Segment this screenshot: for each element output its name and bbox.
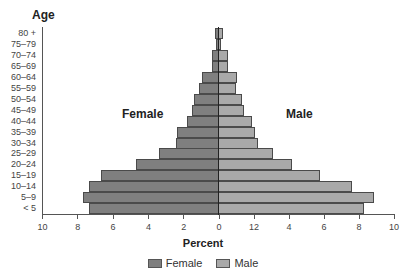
x-tick xyxy=(324,214,325,219)
legend-label-female: Female xyxy=(166,257,203,269)
bar-male xyxy=(219,159,293,170)
x-tick xyxy=(148,214,149,219)
y-tick-label: 40–44 xyxy=(11,116,36,127)
x-tick-label: 4 xyxy=(146,222,151,232)
bar-male xyxy=(219,83,237,94)
bar-male xyxy=(219,94,243,105)
x-tick xyxy=(183,214,184,219)
bar-male xyxy=(219,127,256,138)
y-tick-label: 70–74 xyxy=(11,50,36,61)
bar-male xyxy=(219,28,223,39)
bar-female xyxy=(136,159,218,170)
y-tick-label: 35–39 xyxy=(11,127,36,138)
legend: Female Male xyxy=(0,257,406,269)
bar-male xyxy=(219,138,258,149)
bar-male xyxy=(219,72,237,83)
x-tick xyxy=(289,214,290,219)
y-tick-label: 5–9 xyxy=(21,192,36,203)
bar-female xyxy=(89,203,219,214)
x-tick-label: 12 xyxy=(249,222,259,232)
bar-female xyxy=(199,83,218,94)
bar-male xyxy=(219,50,229,61)
y-tick-label: 65–69 xyxy=(11,61,36,72)
x-tick xyxy=(359,214,360,219)
bar-female xyxy=(202,72,219,83)
x-tick xyxy=(77,214,78,219)
legend-label-male: Male xyxy=(234,257,258,269)
x-axis-title: Percent xyxy=(0,237,406,249)
bar-male xyxy=(219,170,321,181)
bar-female xyxy=(101,170,218,181)
bar-male xyxy=(219,192,375,203)
x-tick xyxy=(42,214,43,219)
bar-male xyxy=(219,203,364,214)
y-tick-label: 60–64 xyxy=(11,72,36,83)
x-tick-label: 6 xyxy=(111,222,116,232)
y-axis-line xyxy=(42,27,43,215)
male-annotation: Male xyxy=(286,107,313,121)
x-tick-label: 2 xyxy=(181,222,186,232)
x-tick-label: 10 xyxy=(37,222,47,232)
bar-female xyxy=(89,181,219,192)
bar-male xyxy=(219,181,352,192)
legend-item-female: Female xyxy=(148,257,203,269)
bar-female xyxy=(176,138,219,149)
bar-male xyxy=(219,116,252,127)
x-tick-label: 6 xyxy=(321,222,326,232)
bar-female xyxy=(187,116,219,127)
female-swatch-icon xyxy=(148,259,162,268)
y-tick-label: 55–59 xyxy=(11,83,36,94)
y-tick-label: 45–49 xyxy=(11,105,36,116)
y-tick-label: 80 + xyxy=(18,28,36,39)
x-tick xyxy=(113,214,114,219)
zero-line xyxy=(218,27,219,215)
bar-male xyxy=(219,105,244,116)
x-tick-label: 0 xyxy=(216,222,221,232)
bar-female xyxy=(159,148,219,159)
bar-male xyxy=(219,61,229,72)
female-annotation: Female xyxy=(122,107,163,121)
x-tick-label: 4 xyxy=(286,222,291,232)
bar-female xyxy=(194,94,219,105)
bar-female xyxy=(192,105,218,116)
y-tick-label: < 5 xyxy=(23,203,36,214)
y-axis-title: Age xyxy=(32,8,55,22)
bar-female xyxy=(83,192,219,203)
x-tick-label: 8 xyxy=(356,222,361,232)
y-tick-label: 20–24 xyxy=(11,159,36,170)
y-tick-label: 50–54 xyxy=(11,94,36,105)
x-tick xyxy=(254,214,255,219)
x-tick-label: 10 xyxy=(389,222,399,232)
legend-item-male: Male xyxy=(216,257,258,269)
male-swatch-icon xyxy=(216,259,230,268)
y-tick-label: 30–34 xyxy=(11,138,36,149)
bar-male xyxy=(219,148,273,159)
y-tick-label: 75–79 xyxy=(11,39,36,50)
y-tick-label: 25–29 xyxy=(11,148,36,159)
bar-female xyxy=(177,127,218,138)
y-tick-label: 15–19 xyxy=(11,170,36,181)
y-tick-label: 10–14 xyxy=(11,181,36,192)
x-tick-label: 8 xyxy=(75,222,80,232)
x-tick xyxy=(394,214,395,219)
